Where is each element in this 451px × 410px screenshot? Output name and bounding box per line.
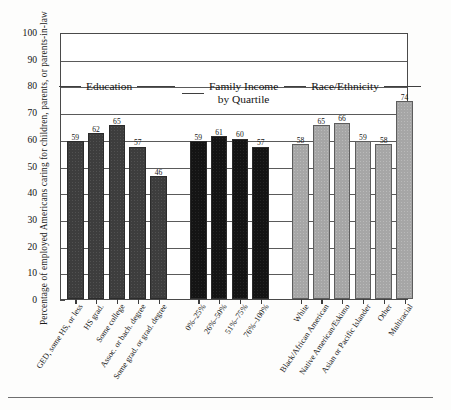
bar: 57: [129, 147, 146, 299]
bar-value-label: 58: [297, 137, 305, 145]
figure: Percentage of employed Americans caring …: [0, 0, 451, 410]
bar: 62: [88, 133, 105, 299]
bar: 61: [211, 136, 228, 299]
bar-value-label: 60: [236, 131, 244, 139]
bar-value-label: 65: [113, 118, 121, 126]
bar-value-label: 59: [359, 134, 367, 142]
y-tick-label-50: 50: [11, 162, 37, 172]
bar-value-label: 59: [195, 134, 203, 142]
y-axis-title: Percentage of employed Americans caring …: [39, 25, 49, 325]
bar: 58: [375, 144, 392, 299]
x-axis-label: Other: [376, 303, 393, 323]
group-header-label: Education: [81, 80, 137, 93]
header-rule-right: [384, 86, 421, 87]
gridline-90: [61, 61, 407, 62]
bar: 57: [252, 147, 269, 299]
y-tick-label-70: 70: [11, 108, 37, 118]
bar: 65: [313, 125, 330, 299]
bar-value-label: 74: [401, 94, 409, 102]
header-rule-left: [182, 93, 204, 94]
group-header-race-ethnicity: Race/Ethnicity: [284, 80, 421, 93]
gridline-70: [61, 114, 407, 115]
bar-value-label: 61: [215, 129, 223, 137]
bar: 59: [355, 141, 372, 299]
bar: 60: [232, 139, 249, 299]
bar-value-label: 66: [338, 115, 346, 123]
header-rule-left: [284, 86, 306, 87]
header-rule-right: [137, 86, 175, 87]
group-header-label: Family Incomeby Quartile: [204, 80, 283, 106]
bar: 46: [150, 176, 167, 299]
bar-value-label: 46: [155, 169, 163, 177]
y-tick-label-90: 90: [11, 55, 37, 65]
group-header-label: Race/Ethnicity: [306, 80, 384, 93]
y-tick-label-20: 20: [11, 242, 37, 252]
x-axis-label: White: [292, 303, 310, 324]
header-rule-left: [59, 86, 81, 87]
y-tick-label-40: 40: [11, 188, 37, 198]
y-tick-label-80: 80: [11, 81, 37, 91]
bar: 58: [292, 144, 309, 299]
bar-value-label: 65: [318, 118, 326, 126]
y-tick-mark-0: [60, 300, 65, 301]
y-tick-label-30: 30: [11, 215, 37, 225]
bar-value-label: 57: [257, 139, 265, 147]
group-header-family-income-by-quartile: Family Incomeby Quartile: [182, 80, 277, 106]
bar: 65: [109, 125, 126, 299]
caption-rule: [8, 397, 433, 398]
bar-value-label: 62: [92, 126, 100, 134]
bar-value-label: 57: [134, 139, 142, 147]
bar-value-label: 58: [380, 137, 388, 145]
bar: 74: [396, 101, 413, 299]
bar: 59: [190, 141, 207, 299]
y-tick-label-10: 10: [11, 268, 37, 278]
y-tick-label-60: 60: [11, 135, 37, 145]
y-tick-label-100: 100: [11, 28, 37, 38]
bar: 59: [67, 141, 84, 299]
y-tick-label-0: 0: [11, 295, 37, 305]
plot-area: 596265574659616057586566595874 Education…: [60, 33, 408, 300]
bar: 66: [334, 123, 351, 299]
bar-value-label: 59: [72, 134, 80, 142]
group-header-education: Education: [59, 80, 175, 93]
